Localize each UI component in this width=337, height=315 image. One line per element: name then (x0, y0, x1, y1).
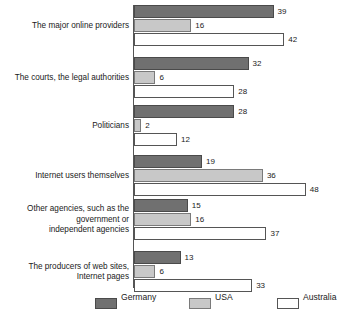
legend-swatch-icon (277, 298, 299, 309)
bar-australia (134, 33, 284, 46)
category-label: Politicians (0, 121, 129, 132)
bar-germany (134, 5, 274, 18)
bar-value-label: 28 (238, 106, 247, 117)
bar-value-label: 42 (288, 34, 297, 45)
legend-swatch-icon (95, 298, 117, 309)
category-label: Other agencies, such as the government o… (0, 204, 129, 236)
category-axis (133, 5, 134, 288)
bar-value-label: 15 (192, 200, 201, 211)
legend-label: Germany (121, 292, 156, 303)
bar-value-label: 28 (238, 86, 247, 97)
bar-value-label: 6 (159, 72, 163, 83)
plot-area: The major online providers391642The cour… (0, 0, 337, 287)
bar-value-label: 16 (195, 214, 204, 225)
bar-usa (134, 119, 141, 132)
bar-australia (134, 85, 234, 98)
bar-value-label: 33 (256, 280, 265, 291)
legend-label: USA (215, 292, 233, 303)
grouped-bar-chart: The major online providers391642The cour… (0, 0, 337, 315)
bar-germany (134, 105, 234, 118)
bar-value-label: 32 (253, 58, 262, 69)
bar-germany (134, 251, 181, 264)
legend-swatch-icon (189, 298, 211, 309)
bar-value-label: 2 (145, 120, 149, 131)
bar-value-label: 6 (159, 266, 163, 277)
category-label: The major online providers (0, 21, 129, 32)
bar-value-label: 48 (310, 184, 319, 195)
bar-usa (134, 19, 191, 32)
bar-usa (134, 71, 155, 84)
bar-australia (134, 183, 306, 196)
bar-germany (134, 57, 249, 70)
bar-value-label: 13 (185, 252, 194, 263)
legend-label: Australia (303, 292, 336, 303)
bar-australia (134, 279, 252, 292)
category-label: The producers of web sites, Internet pag… (0, 262, 129, 283)
chart-legend: GermanyUSAAustralia (0, 292, 337, 315)
bar-value-label: 36 (267, 170, 276, 181)
bar-value-label: 37 (270, 228, 279, 239)
bar-value-label: 19 (206, 156, 215, 167)
bar-germany (134, 199, 188, 212)
bar-germany (134, 155, 202, 168)
bar-value-label: 39 (278, 6, 287, 17)
bar-value-label: 12 (181, 134, 190, 145)
category-label: The courts, the legal authorities (0, 73, 129, 84)
bar-usa (134, 213, 191, 226)
category-label: Internet users themselves (0, 171, 129, 182)
bar-usa (134, 169, 263, 182)
bar-australia (134, 133, 177, 146)
bar-australia (134, 227, 266, 240)
bar-usa (134, 265, 155, 278)
bar-value-label: 16 (195, 20, 204, 31)
